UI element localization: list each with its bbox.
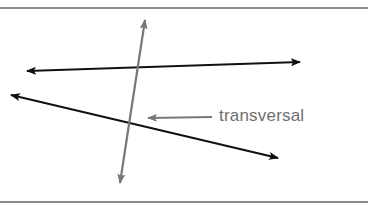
label-pointer-arrow-icon <box>148 117 212 118</box>
diagram-frame: transversal <box>0 0 368 205</box>
transversal-diagram <box>0 0 368 205</box>
parallel-line-1 <box>27 62 300 71</box>
parallel-line-2 <box>11 95 278 158</box>
transversal-line <box>120 20 145 183</box>
transversal-label: transversal <box>219 106 304 126</box>
